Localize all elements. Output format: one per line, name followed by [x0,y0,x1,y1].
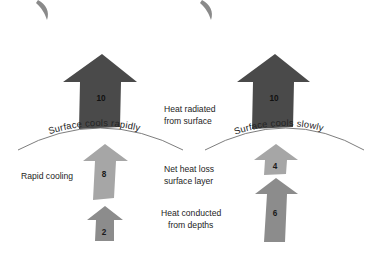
label-net-heat-loss: Net heat loss surface layer [164,164,214,186]
arc-right [205,128,364,150]
arc-left [18,128,183,150]
arrow-right-conducted-value: 6 [273,209,278,218]
diagram-canvas: 10 Surface cools rapidly 8 2 Rapid cooli… [0,0,369,254]
label-rapid-cooling: Rapid cooling [21,171,73,181]
label-heat-conducted-line1: Heat conducted [161,208,221,218]
label-heat-conducted-line2: from depths [168,220,213,230]
label-heat-radiated-line1: Heat radiated [164,104,216,114]
arrow-left-radiated-value: 10 [96,94,106,103]
arrow-right-net-value: 4 [273,162,278,171]
arrow-right-radiated-value: 10 [269,94,279,103]
crescent-right-icon [200,0,212,20]
label-net-heat-loss-line2: surface layer [164,176,213,186]
label-heat-conducted: Heat conducted from depths [161,208,221,230]
label-net-heat-loss-line1: Net heat loss [164,164,214,174]
crescent-left-icon [36,0,48,20]
arrow-left-net-value: 8 [102,170,107,179]
label-heat-radiated: Heat radiated from surface [164,104,216,126]
label-heat-radiated-line2: from surface [164,116,212,126]
arrow-left-conducted-value: 2 [102,228,107,237]
